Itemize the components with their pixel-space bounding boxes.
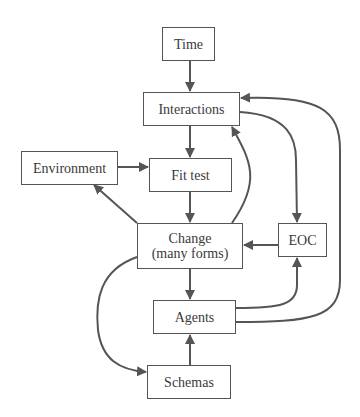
edge-agents-eoc <box>236 258 297 308</box>
diagram-canvas: Time Interactions Environment Fit test C… <box>0 0 360 417</box>
node-change: Change (many forms) <box>137 223 243 269</box>
node-interactions-label: Interactions <box>158 102 224 117</box>
node-agents: Agents <box>153 300 236 334</box>
node-interactions: Interactions <box>143 92 240 126</box>
edge-change-environment <box>94 185 137 223</box>
node-environment-label: Environment <box>33 161 106 176</box>
node-time-label: Time <box>174 37 203 52</box>
node-fit-test: Fit test <box>149 158 232 192</box>
edge-change-schemas <box>97 257 146 372</box>
node-agents-label: Agents <box>175 310 215 325</box>
node-fit-test-label: Fit test <box>171 168 210 183</box>
node-change-label-line1: Change <box>169 231 212 246</box>
edges-layer <box>0 0 360 417</box>
node-eoc: EOC <box>278 223 327 257</box>
node-schemas: Schemas <box>147 365 231 399</box>
node-time: Time <box>162 27 215 61</box>
node-eoc-label: EOC <box>289 233 317 248</box>
node-schemas-label: Schemas <box>164 375 214 390</box>
node-change-label-line2: (many forms) <box>152 246 229 261</box>
edge-change-interactions <box>232 127 250 223</box>
node-environment: Environment <box>21 151 118 185</box>
